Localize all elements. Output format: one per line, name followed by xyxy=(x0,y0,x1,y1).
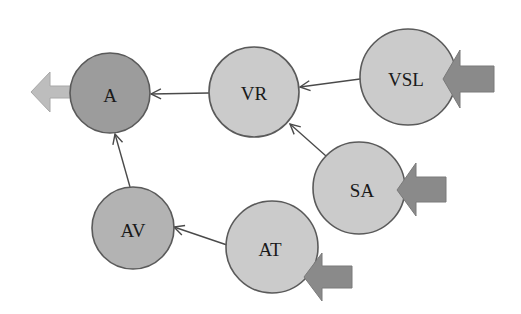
edge-vr-to-a xyxy=(151,93,209,94)
node-sa-label: SA xyxy=(350,180,375,201)
left-arrow-icon xyxy=(397,163,446,216)
signal-flow-diagram: A VR VSL SA AV AT xyxy=(0,0,521,314)
node-av: AV xyxy=(92,187,174,269)
input-arrow-sa xyxy=(397,163,446,216)
node-vsl-label: VSL xyxy=(388,69,424,90)
node-sa: SA xyxy=(313,142,405,234)
node-vsl: VSL xyxy=(360,29,456,125)
node-vr-label: VR xyxy=(241,83,268,104)
node-vr: VR xyxy=(209,47,299,137)
node-a: A xyxy=(70,53,150,133)
node-a-label: A xyxy=(103,85,117,106)
edge-av-to-a xyxy=(115,134,130,187)
edge-vsl-to-vr xyxy=(300,79,360,87)
node-av-label: AV xyxy=(121,220,146,241)
edge-at-to-av xyxy=(174,227,227,245)
node-at-label: AT xyxy=(258,239,282,260)
edge-sa-to-vr xyxy=(290,124,326,156)
node-at: AT xyxy=(226,201,318,293)
